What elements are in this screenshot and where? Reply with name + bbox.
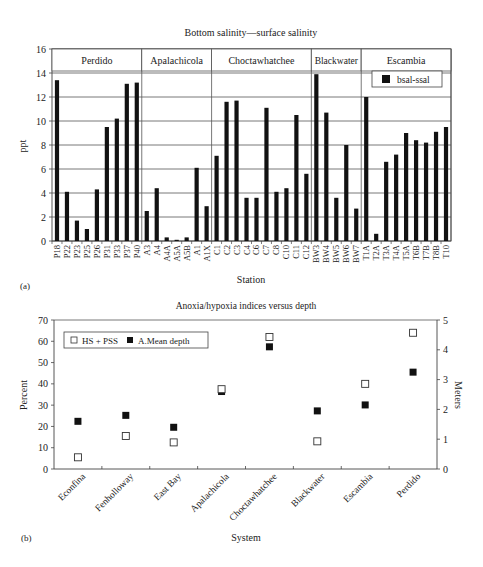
station-label: C3 [232,245,242,255]
y-tick-label-right: 1 [443,434,448,445]
point-mean-depth [410,369,417,376]
point-mean-depth [74,418,81,425]
legend: HS + PSS A.Mean depth [64,332,208,348]
bar [344,145,348,241]
y-tick-label-right: 3 [443,374,448,385]
bar [145,211,149,241]
station-label: BW6 [341,245,351,263]
bar [304,174,308,241]
system-label: Choctawhatchee [227,471,278,522]
bar [364,97,368,241]
point-mean-depth [170,424,177,431]
point-mean-depth [122,412,129,419]
point-mean-depth [362,401,369,408]
group-header-label: Blackwater [315,56,359,66]
y-tick-label: 2 [41,212,46,223]
y-tick-label-left: 10 [38,442,48,453]
bar [384,162,388,241]
point-hs-pss [218,386,225,393]
station-label: T6B [411,245,421,260]
legend-swatch-open-square [71,337,77,343]
station-label: P37 [122,245,132,258]
bar [274,192,278,241]
y-tick-label-left: 40 [38,378,48,389]
y-tick-label: 16 [36,44,46,55]
bar [75,221,79,241]
station-label: T5A [401,244,411,260]
bar [324,113,328,241]
bar [334,198,338,241]
bar [254,198,258,241]
station-label: T10 [441,245,451,259]
bar [224,102,228,241]
bar [234,101,238,241]
station-label: T7B [421,245,431,260]
system-label: Blackwater [289,471,327,509]
y-tick-label-left: 30 [38,400,48,411]
bars [55,74,448,241]
bar [85,229,89,241]
legend-label-hs-pss: HS + PSS [82,336,118,346]
chart-b-title: Anoxia/hypoxia indices versus depth [176,301,317,311]
bar [314,74,318,241]
station-label: A3 [142,245,152,255]
point-hs-pss [266,334,273,341]
legend-swatch-filled-square [127,337,133,343]
station-label: A4 [152,244,162,255]
bar [434,132,438,241]
station-label: C4 [242,244,252,255]
legend-swatch-filled-square [382,75,390,83]
system-label: Fenholloway [93,471,135,513]
bar [354,209,358,241]
bar [165,237,169,241]
bar [214,156,218,241]
y-tick-label: 14 [36,68,46,79]
system-label: Econfina [56,471,88,503]
station-label: A5A [172,244,182,261]
bar [264,108,268,241]
figure: Bottom salinity—surface salinity Perdido… [0,0,483,567]
bar [95,189,99,241]
station-label: T4A [391,244,401,260]
bar [394,155,398,241]
bar [55,80,59,241]
y-tick-label-left: 60 [38,336,48,347]
station-label: P22 [62,245,72,258]
y-tick-label-left: 70 [38,315,48,326]
point-hs-pss [362,380,369,387]
station-label: BW5 [331,245,341,263]
y-tick-label: 10 [36,116,46,127]
station-label: BW7 [351,245,361,263]
station-label: C6 [251,245,261,255]
y-axis-label: ppt [17,139,28,152]
bar [205,206,209,241]
y-tick-label-right: 5 [443,315,448,326]
panel-label-b: (b) [21,533,32,543]
bar [135,83,139,241]
station-label: T2A [371,244,381,260]
station-label: T3A [381,244,391,260]
bar [424,143,428,241]
station-label: P31 [102,245,112,258]
station-label: C2 [222,245,232,255]
point-hs-pss [170,439,177,446]
bar [155,188,159,241]
bar [175,240,179,241]
data-points [74,329,416,461]
legend-label-mean-depth: A.Mean depth [138,336,190,346]
bar [105,127,109,241]
station-label: T8B [431,245,441,260]
station-label: T1A [361,244,371,260]
y-tick-label-left: 50 [38,357,48,368]
bar [404,133,408,241]
bar [65,192,69,241]
station-label: A4A [162,244,172,261]
point-hs-pss [314,438,321,445]
y-axis-ticks: 0246810121416 [36,44,52,247]
point-mean-depth [266,343,273,350]
y-tick-label: 12 [36,92,46,103]
legend-label: bsal-ssal [397,75,430,85]
station-label: BW4 [321,244,331,263]
station-label: P40 [132,245,142,258]
station-label: A5B [182,245,192,261]
